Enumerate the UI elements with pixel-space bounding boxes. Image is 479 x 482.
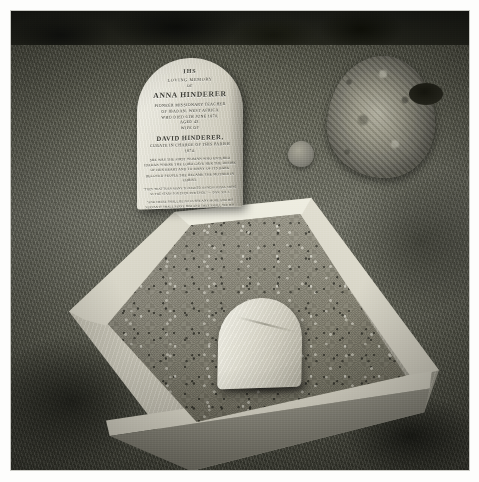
headstone: IHS Loving Memory of Anna Hinderer Pione… <box>137 57 243 210</box>
photo-page: IHS Loving Memory of Anna Hinderer Pione… <box>0 0 479 482</box>
photograph: IHS Loving Memory of Anna Hinderer Pione… <box>11 11 469 470</box>
headstone-inscription: IHS Loving Memory of Anna Hinderer Pione… <box>137 57 243 210</box>
footstone-marker <box>217 296 303 389</box>
inscription-memorial-block: She Was The First Woman Who Entered Ibad… <box>143 155 237 184</box>
inscription-verse-1: "They That Turn Many To Righteousness Sh… <box>143 185 237 197</box>
inscription-wife-prefix: Wife of <box>143 124 237 132</box>
footstone-texture <box>217 296 303 389</box>
ihs-symbol: IHS <box>143 67 237 76</box>
